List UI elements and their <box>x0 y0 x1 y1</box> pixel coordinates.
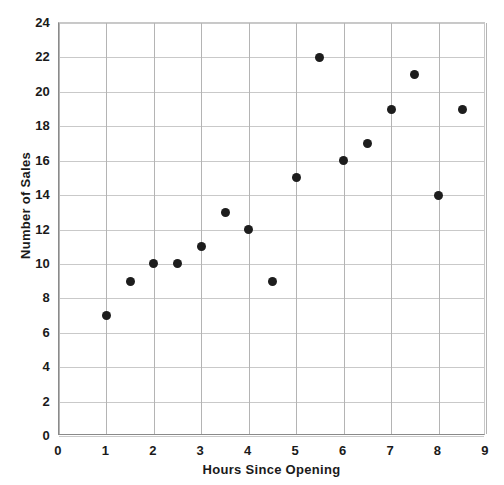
gridline-vertical <box>106 23 107 434</box>
gridline-vertical <box>296 23 297 434</box>
x-tick-label: 9 <box>465 443 504 458</box>
data-point <box>387 105 396 114</box>
gridline-horizontal <box>59 195 484 196</box>
gridline-vertical <box>344 23 345 434</box>
y-tick-label: 6 <box>6 324 50 339</box>
data-point <box>244 225 253 234</box>
data-point <box>268 277 277 286</box>
gridline-horizontal <box>59 57 484 58</box>
x-tick-label: 1 <box>85 443 125 458</box>
scatter-chart: 024681012141618202224 0123456789 Hours S… <box>0 0 504 485</box>
y-tick-label: 18 <box>6 118 50 133</box>
gridline-horizontal <box>59 264 484 265</box>
gridline-horizontal <box>59 92 484 93</box>
gridline-horizontal <box>59 298 484 299</box>
x-tick-label: 2 <box>133 443 173 458</box>
gridline-vertical <box>154 23 155 434</box>
gridline-horizontal <box>59 367 484 368</box>
data-point <box>410 70 419 79</box>
data-point <box>339 156 348 165</box>
x-tick-label: 6 <box>323 443 363 458</box>
gridline-vertical <box>59 23 60 434</box>
x-tick-label: 5 <box>275 443 315 458</box>
data-point <box>315 53 324 62</box>
data-point <box>363 139 372 148</box>
y-tick-label: 20 <box>6 83 50 98</box>
gridline-horizontal <box>59 230 484 231</box>
plot-area <box>58 22 485 435</box>
gridline-horizontal <box>59 436 484 437</box>
gridline-vertical <box>439 23 440 434</box>
data-point <box>292 173 301 182</box>
gridline-horizontal <box>59 333 484 334</box>
data-point <box>458 105 467 114</box>
gridline-vertical <box>486 23 487 434</box>
data-point <box>149 259 158 268</box>
gridline-vertical <box>391 23 392 434</box>
data-point <box>197 242 206 251</box>
data-point <box>173 259 182 268</box>
gridline-horizontal <box>59 161 484 162</box>
x-tick-label: 4 <box>228 443 268 458</box>
y-tick-label: 24 <box>6 15 50 30</box>
x-axis-title: Hours Since Opening <box>58 462 485 477</box>
y-tick-label: 22 <box>6 49 50 64</box>
gridline-horizontal <box>59 23 484 24</box>
gridline-vertical <box>201 23 202 434</box>
x-axis-ticks: 0123456789 <box>58 443 485 463</box>
gridline-horizontal <box>59 126 484 127</box>
y-tick-label: 0 <box>6 428 50 443</box>
gridline-horizontal <box>59 402 484 403</box>
x-tick-label: 0 <box>38 443 78 458</box>
y-tick-label: 4 <box>6 359 50 374</box>
y-tick-label: 2 <box>6 393 50 408</box>
x-tick-label: 7 <box>370 443 410 458</box>
x-tick-label: 3 <box>180 443 220 458</box>
data-point <box>434 191 443 200</box>
data-point <box>102 311 111 320</box>
data-point <box>126 277 135 286</box>
y-tick-label: 8 <box>6 290 50 305</box>
x-tick-label: 8 <box>418 443 458 458</box>
y-axis-title: Number of Sales <box>18 136 33 276</box>
data-point <box>221 208 230 217</box>
